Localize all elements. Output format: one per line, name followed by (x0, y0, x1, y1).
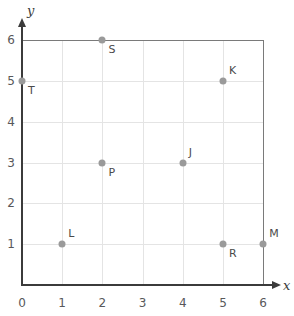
gridline-horizontal-3 (22, 163, 263, 164)
data-point-L (59, 241, 66, 248)
x-axis-arrow-icon (272, 281, 281, 289)
coordinate-plane-scatter-plot: yx0123456123456STKPJLRM (0, 0, 294, 316)
gridline-horizontal-2 (22, 203, 263, 204)
y-axis-label: y (27, 4, 34, 17)
data-point-J (179, 159, 186, 166)
x-axis-tick-3: 3 (139, 297, 147, 309)
data-point-S (99, 37, 106, 44)
x-axis-tick-2: 2 (99, 297, 107, 309)
y-axis-tick-3: 3 (7, 157, 15, 169)
data-point-label-P: P (108, 167, 115, 178)
y-axis-arrow-icon (18, 18, 26, 27)
data-point-label-M: M (269, 228, 279, 239)
plot-frame-right (263, 40, 264, 285)
data-point-label-L: L (68, 228, 74, 239)
data-point-label-K: K (229, 65, 236, 76)
data-point-P (99, 159, 106, 166)
x-axis-tick-5: 5 (219, 297, 227, 309)
y-axis-tick-6: 6 (7, 34, 15, 46)
data-point-label-T: T (28, 85, 35, 96)
plot-frame-top (22, 40, 264, 41)
y-axis-tick-5: 5 (7, 75, 15, 87)
y-axis-line (21, 26, 23, 286)
gridline-horizontal-4 (22, 122, 263, 123)
data-point-M (260, 241, 267, 248)
x-axis-tick-1: 1 (58, 297, 66, 309)
y-axis-tick-1: 1 (7, 238, 15, 250)
x-axis-label: x (283, 279, 290, 292)
data-point-T (19, 78, 26, 85)
data-point-label-R: R (229, 248, 237, 259)
data-point-label-S: S (108, 44, 115, 55)
y-axis-tick-2: 2 (7, 197, 15, 209)
gridline-horizontal-5 (22, 81, 263, 82)
x-axis-tick-0: 0 (18, 297, 26, 309)
data-point-label-J: J (189, 147, 192, 158)
y-axis-tick-4: 4 (7, 116, 15, 128)
data-point-K (220, 78, 227, 85)
x-axis-line (21, 284, 272, 286)
x-axis-tick-4: 4 (179, 297, 187, 309)
data-point-R (220, 241, 227, 248)
x-axis-tick-6: 6 (259, 297, 267, 309)
